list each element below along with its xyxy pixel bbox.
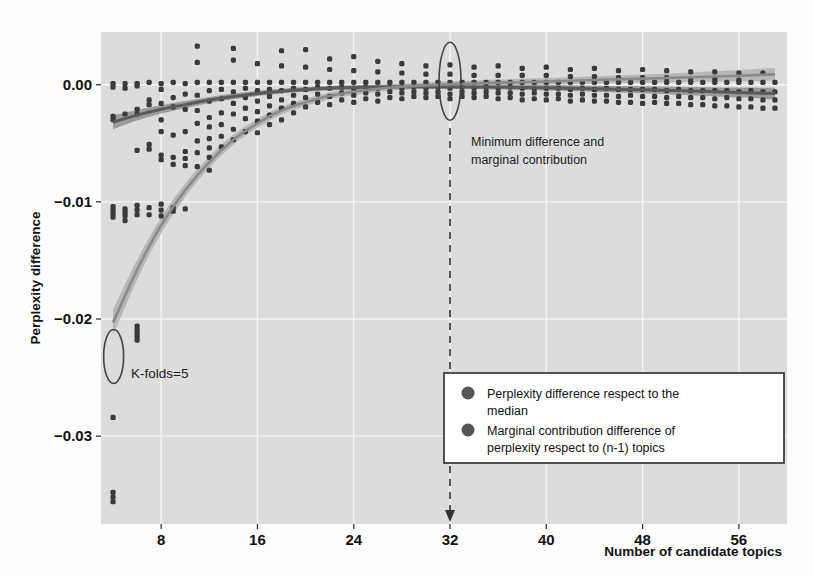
- scatter-point: [303, 104, 308, 109]
- scatter-point: [147, 205, 152, 210]
- scatter-point: [255, 99, 260, 104]
- scatter-point: [243, 80, 248, 85]
- scatter-point: [628, 100, 633, 105]
- scatter-point: [195, 93, 200, 98]
- scatter-point: [122, 81, 127, 86]
- scatter-point: [291, 110, 296, 115]
- y-tick-label: −0.03: [54, 427, 92, 444]
- scatter-point: [556, 96, 561, 101]
- scatter-point: [122, 218, 127, 223]
- scatter-point: [147, 80, 152, 85]
- scatter-point: [484, 94, 489, 99]
- scatter-point: [484, 89, 489, 94]
- scatter-point: [159, 81, 164, 86]
- scatter-point: [736, 96, 741, 101]
- scatter-point: [592, 93, 597, 98]
- scatter-point: [183, 129, 188, 134]
- scatter-point: [411, 80, 416, 85]
- scatter-point: [387, 80, 392, 85]
- scatter-point: [592, 66, 597, 71]
- scatter-point: [195, 60, 200, 65]
- scatter-point: [544, 65, 549, 70]
- scatter-point: [496, 73, 501, 78]
- scatter-point: [219, 110, 224, 115]
- scatter-point: [207, 168, 212, 173]
- scatter-point: [207, 136, 212, 141]
- scatter-point: [183, 206, 188, 211]
- scatter-point: [231, 89, 236, 94]
- scatter-point: [664, 68, 669, 73]
- scatter-point: [604, 93, 609, 98]
- scatter-point: [520, 73, 525, 78]
- scatter-point: [700, 102, 705, 107]
- scatter-point: [544, 73, 549, 78]
- x-tick-label: 32: [442, 531, 459, 548]
- scatter-point: [772, 80, 777, 85]
- scatter-point: [267, 103, 272, 108]
- scatter-point: [171, 95, 176, 100]
- scatter-point: [520, 91, 525, 96]
- scatter-point: [351, 80, 356, 85]
- scatter-point: [171, 132, 176, 137]
- scatter-point: [628, 80, 633, 85]
- scatter-point: [544, 91, 549, 96]
- scatter-point: [688, 69, 693, 74]
- scatter-point: [532, 96, 537, 101]
- scatter-point: [375, 69, 380, 74]
- scatter-point: [159, 157, 164, 162]
- scatter-point: [568, 93, 573, 98]
- scatter-point: [110, 415, 115, 420]
- scatter-point: [688, 80, 693, 85]
- scatter-point: [219, 122, 224, 127]
- scatter-point: [520, 97, 525, 102]
- scatter-point: [303, 80, 308, 85]
- scatter-point: [327, 56, 332, 61]
- x-tick-label: 16: [249, 531, 266, 548]
- scatter-point: [748, 96, 753, 101]
- scatter-point: [159, 213, 164, 218]
- scatter-point: [279, 97, 284, 102]
- scatter-point: [339, 80, 344, 85]
- scatter-point: [712, 69, 717, 74]
- scatter-point: [471, 90, 476, 95]
- scatter-point: [351, 54, 356, 59]
- scatter-point: [399, 70, 404, 75]
- scatter-point: [544, 97, 549, 102]
- scatter-point: [724, 80, 729, 85]
- scatter-point: [471, 73, 476, 78]
- scatter-point: [628, 93, 633, 98]
- scatter-point: [207, 115, 212, 120]
- scatter-point: [255, 109, 260, 114]
- scatter-point: [231, 101, 236, 106]
- scatter-point: [724, 103, 729, 108]
- scatter-point: [207, 88, 212, 93]
- scatter-point: [267, 80, 272, 85]
- scatter-point: [183, 81, 188, 86]
- scatter-point: [447, 91, 452, 96]
- scatter-point: [387, 95, 392, 100]
- scatter-point: [135, 207, 140, 212]
- scatter-point: [387, 89, 392, 94]
- scatter-point: [760, 97, 765, 102]
- scatter-point: [568, 99, 573, 104]
- y-tick-label: −0.01: [54, 193, 92, 210]
- scatter-point: [375, 91, 380, 96]
- scatter-point: [664, 101, 669, 106]
- scatter-point: [159, 101, 164, 106]
- scatter-point: [110, 84, 115, 89]
- scatter-point: [604, 99, 609, 104]
- scatter-point: [135, 337, 140, 342]
- scatter-point: [171, 155, 176, 160]
- scatter-point: [508, 90, 513, 95]
- scatter-point: [159, 87, 164, 92]
- scatter-point: [219, 134, 224, 139]
- scatter-point: [496, 63, 501, 68]
- scatter-point: [231, 80, 236, 85]
- scatter-point: [327, 67, 332, 72]
- scatter-point: [616, 100, 621, 105]
- scatter-point: [315, 91, 320, 96]
- scatter-point: [183, 149, 188, 154]
- scatter-point: [736, 104, 741, 109]
- scatter-point: [423, 95, 428, 100]
- scatter-point: [724, 95, 729, 100]
